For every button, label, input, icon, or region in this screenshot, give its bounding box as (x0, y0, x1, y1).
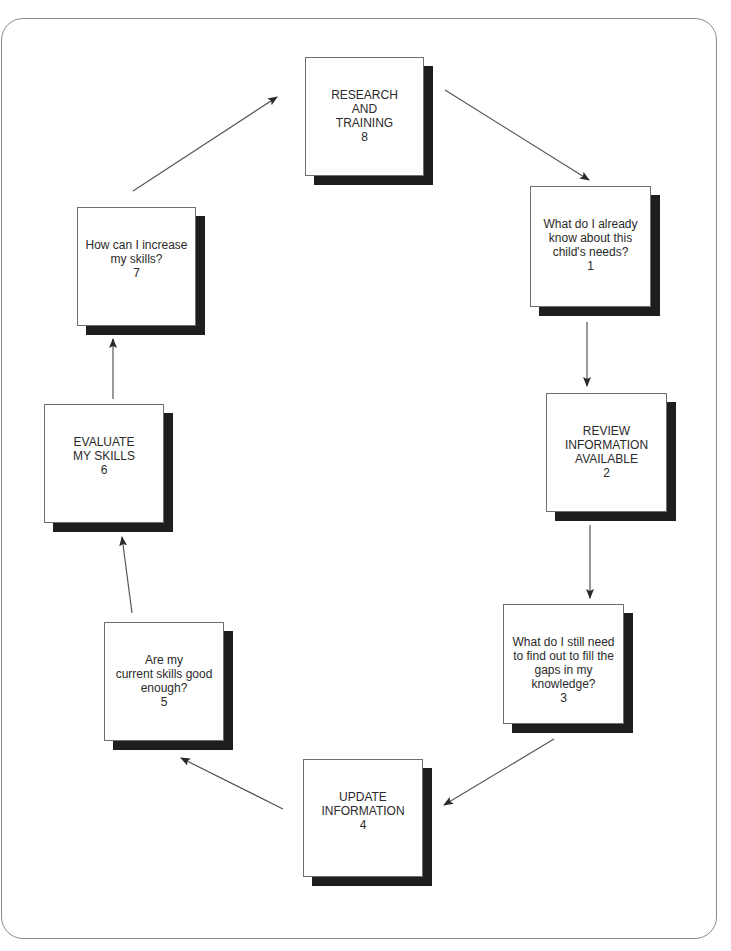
step-label-line: EVALUATE (74, 435, 135, 449)
node-box: REVIEWINFORMATIONAVAILABLE2 (546, 393, 667, 512)
step-node-8: RESEARCHANDTRAINING8 (305, 57, 424, 176)
step-label-line: child's needs? (553, 245, 629, 259)
step-number: 5 (161, 695, 168, 709)
step-number: 6 (101, 463, 108, 477)
arrow-4-to-5-icon (181, 758, 283, 809)
step-node-3: What do I still needto find out to fill … (503, 604, 624, 724)
node-box: What do I still needto find out to fill … (503, 604, 624, 724)
node-box: Are mycurrent skills goodenough?5 (104, 622, 224, 741)
node-box: RESEARCHANDTRAINING8 (305, 57, 424, 176)
step-label-line: What do I still need (512, 635, 614, 649)
step-number: 3 (560, 691, 567, 705)
step-label-line: INFORMATION (565, 438, 648, 452)
step-label-line: What do I already (543, 217, 637, 231)
step-label-line: INFORMATION (321, 804, 404, 818)
node-box: How can I increasemy skills?7 (77, 207, 196, 326)
step-number: 2 (603, 466, 610, 480)
step-node-7: How can I increasemy skills?7 (77, 207, 196, 326)
step-label-line: AND (352, 102, 377, 116)
node-box: UPDATEINFORMATION4 (303, 759, 423, 877)
node-box: EVALUATEMY SKILLS6 (44, 404, 164, 523)
step-number: 4 (360, 818, 367, 832)
step-label-line: know about this (549, 231, 632, 245)
step-number: 1 (587, 259, 594, 273)
step-label-line: Are my (145, 653, 183, 667)
step-label-line: TRAINING (336, 116, 393, 130)
step-node-6: EVALUATEMY SKILLS6 (44, 404, 164, 523)
step-label-line: gaps in my (534, 663, 592, 677)
step-label-line: my skills? (110, 252, 162, 266)
arrow-8-to-1-icon (445, 90, 589, 180)
step-node-4: UPDATEINFORMATION4 (303, 759, 423, 877)
step-number: 7 (133, 266, 140, 280)
step-label-line: AVAILABLE (575, 452, 638, 466)
step-label-line: knowledge? (531, 677, 595, 691)
arrow-3-to-4-icon (444, 739, 554, 805)
step-label-line: REVIEW (583, 424, 630, 438)
step-node-5: Are mycurrent skills goodenough?5 (104, 622, 224, 741)
step-number: 8 (361, 130, 368, 144)
step-node-1: What do I alreadyknow about thischild's … (530, 186, 651, 307)
step-node-2: REVIEWINFORMATIONAVAILABLE2 (546, 393, 667, 512)
step-label-line: UPDATE (339, 790, 387, 804)
arrow-5-to-6-icon (122, 537, 132, 613)
step-label-line: MY SKILLS (73, 449, 135, 463)
node-box: What do I alreadyknow about thischild's … (530, 186, 651, 307)
step-label-line: RESEARCH (331, 88, 398, 102)
step-label-line: current skills good (116, 667, 213, 681)
step-label-line: to find out to fill the (513, 649, 614, 663)
step-label-line: How can I increase (85, 238, 187, 252)
step-label-line: enough? (141, 681, 188, 695)
arrow-7-to-8-icon (133, 97, 277, 191)
